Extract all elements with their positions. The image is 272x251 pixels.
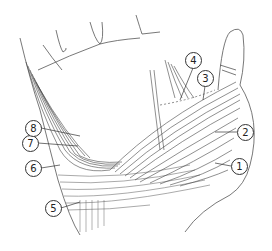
label-7: 7 — [22, 135, 39, 152]
label-3: 3 — [197, 70, 214, 87]
label-2: 2 — [237, 124, 254, 141]
label-8: 8 — [25, 120, 42, 137]
label-4: 4 — [185, 52, 202, 69]
label-5: 5 — [45, 200, 62, 217]
label-6: 6 — [25, 160, 42, 177]
label-1: 1 — [231, 158, 248, 175]
